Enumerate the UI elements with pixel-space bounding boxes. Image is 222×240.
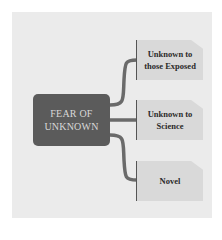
branch-label: Unknown to those Exposed: [144, 48, 196, 72]
branch-node-novel: Novel: [137, 161, 203, 201]
branch-node-unknown-to-science: Unknown to Science: [137, 100, 203, 140]
branch-label: Unknown to Science: [148, 108, 193, 132]
branch-node-unknown-to-those-exposed: Unknown to those Exposed: [137, 40, 203, 80]
central-topic-label: FEAR OF UNKNOWN: [44, 107, 98, 133]
branch-label: Novel: [160, 175, 181, 187]
central-topic-node: FEAR OF UNKNOWN: [33, 94, 110, 146]
